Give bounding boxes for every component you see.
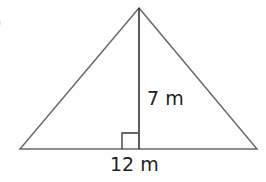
base-label: 12 m — [110, 155, 159, 174]
cropped-label-fragment: ) — [0, 16, 1, 30]
height-label: 7 m — [147, 89, 184, 108]
right-angle-marker — [122, 133, 138, 149]
